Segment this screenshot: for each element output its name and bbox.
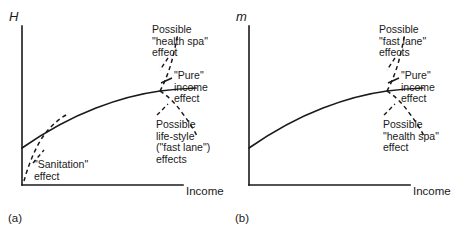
panel-a-caption: (a): [8, 213, 22, 225]
panel-a-leader-pure-income: [161, 78, 172, 83]
panel-a-annotation-sanitation: "Sanitation" effect: [34, 159, 88, 182]
panel-a-y-axis-label: H: [9, 10, 19, 23]
panel-b-caption: (b): [235, 213, 249, 225]
panel-a-annotation-pure-income: "Pure" income effect: [174, 70, 208, 105]
panel-a-leader-life-style: [157, 104, 168, 115]
panel-b-x-axis-label: Income: [413, 186, 451, 198]
panel-b-leader-fast-lane: [387, 58, 395, 70]
panel-b-leader-health-spa: [384, 104, 395, 115]
panel-a-x-axis-label: Income: [186, 186, 224, 198]
panel-a-leader-health-spa: [160, 58, 168, 70]
panel-b-annotation-pure-income: "Pure" income effect: [401, 70, 435, 105]
panel-a-annotation-health-spa: Possible "health spa" effect: [152, 24, 208, 59]
panel-b-y-axis-label: m: [236, 10, 247, 23]
panel-a-annotation-life-style: Possible life-style ("fast lane") effect…: [156, 119, 210, 165]
panel-b-annotation-fast-lane: Possible "fast lane" effects: [379, 24, 426, 59]
figure-two-panel-health-income: H Income Possible "health spa" effect "P…: [0, 0, 454, 235]
panel-b-annotation-health-spa: Possible "health spa" effect: [383, 119, 439, 154]
panel-b-leader-pure-income: [388, 78, 399, 83]
